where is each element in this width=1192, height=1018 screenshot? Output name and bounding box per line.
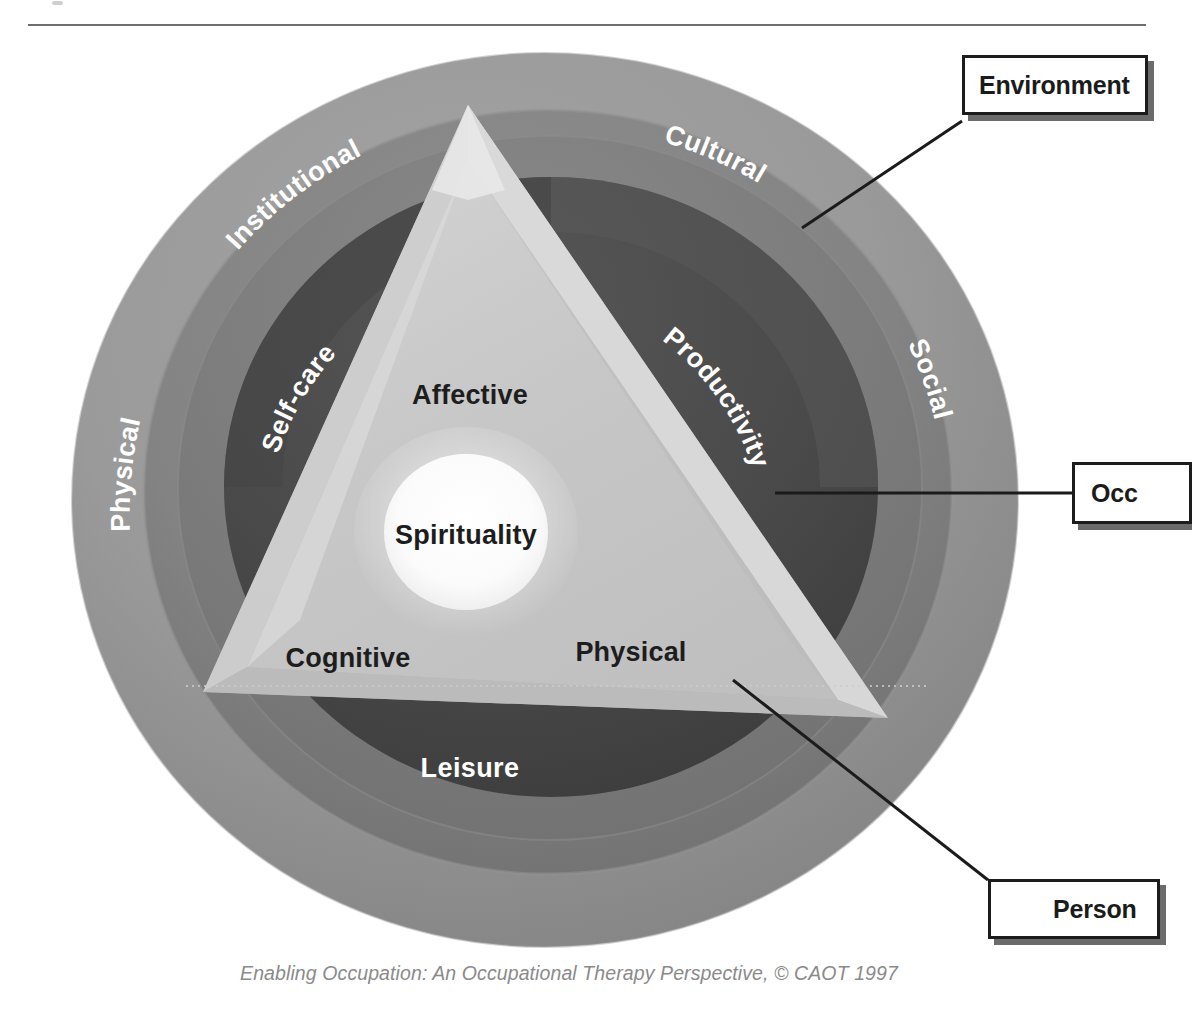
person-label-cognitive: Cognitive	[286, 643, 411, 673]
callout-person-label: Person	[1053, 895, 1137, 924]
callout-occupation-label: Occ	[1091, 479, 1138, 508]
callout-occupation[interactable]: Occ	[1072, 462, 1192, 524]
person-label-affective: Affective	[412, 380, 528, 410]
occ-label-leisure: Leisure	[421, 753, 520, 783]
person-label-physical: Physical	[575, 637, 686, 667]
figure-caption: Enabling Occupation: An Occupational The…	[0, 962, 1138, 985]
callout-environment[interactable]: Environment	[962, 55, 1148, 115]
callout-environment-label: Environment	[979, 71, 1130, 100]
person-label-spirituality: Spirituality	[395, 520, 537, 550]
callout-person[interactable]: Person	[988, 879, 1160, 939]
